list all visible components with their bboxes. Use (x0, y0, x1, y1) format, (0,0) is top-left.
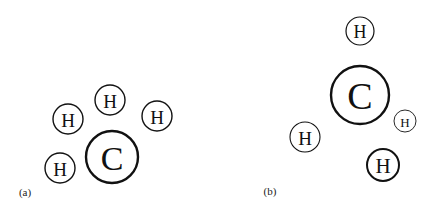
hydrogen-atom-symbol: H (298, 128, 312, 149)
hydrogen-atom: H (142, 101, 172, 131)
hydrogen-atom-symbol: H (103, 91, 117, 112)
hydrogen-atom: H (290, 122, 320, 152)
carbon-atom-symbol: C (101, 140, 124, 177)
carbon-atom: C (331, 66, 389, 124)
panel-label-b: (b) (264, 185, 277, 198)
hydrogen-atom-symbol: H (53, 159, 67, 180)
carbon-atom-symbol: C (347, 75, 372, 117)
hydrogen-atom: H (394, 110, 416, 132)
hydrogen-atom: H (45, 153, 75, 183)
methane-diagram: HHHHC(a) HCHHH(b) (0, 0, 433, 206)
hydrogen-atom-symbol: H (61, 110, 75, 131)
hydrogen-atom-symbol: H (375, 154, 390, 178)
panel-a: HHHHC(a) (19, 85, 172, 199)
hydrogen-atom-symbol: H (150, 107, 164, 128)
hydrogen-atom: H (95, 85, 125, 115)
panel-b: HCHHH(b) (264, 17, 416, 198)
hydrogen-atom: H (367, 149, 399, 181)
carbon-atom: C (86, 131, 138, 183)
hydrogen-atom-symbol: H (400, 115, 409, 130)
hydrogen-atom-symbol: H (354, 22, 367, 42)
hydrogen-atom: H (346, 17, 374, 45)
panel-label-a: (a) (19, 186, 32, 199)
hydrogen-atom: H (53, 104, 83, 134)
